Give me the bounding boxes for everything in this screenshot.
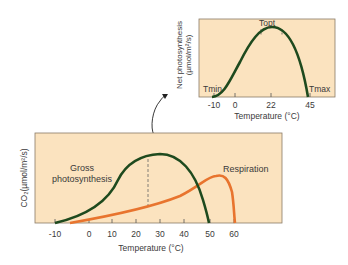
bottom-tick-label: 0: [87, 229, 92, 239]
bottom-tick-label: 20: [131, 229, 141, 239]
top-x-axis-title: Temperature (°C): [234, 111, 299, 121]
respiration-label: Respiration: [223, 164, 269, 174]
top-tick-label: -10: [208, 100, 221, 110]
gross-label-line2: photosynthesis: [52, 174, 113, 184]
tmin-label: Tmin: [203, 84, 222, 94]
top-tick-label: 22: [266, 100, 276, 110]
topt-label: Topt: [259, 18, 276, 28]
tmax-label: Tmax: [309, 84, 331, 94]
bottom-tick-label: -10: [49, 229, 62, 239]
arrow-head-icon: [162, 94, 168, 99]
bottom-y-axis-title: CO₂(µmol/m²/s): [19, 148, 29, 207]
top-tick-label: 0: [233, 100, 238, 110]
top-y-axis-title-line2: (µmol/m²/s): [184, 34, 193, 75]
gross-label-line1: Gross: [70, 163, 95, 173]
top-y-axis-title-line1: Net photosynthesis: [175, 21, 184, 89]
bottom-tick-label: 30: [155, 229, 165, 239]
bottom-tick-label: 50: [205, 229, 215, 239]
bottom-tick-label: 40: [179, 229, 189, 239]
figure: Tmin Topt Tmax -10 0 22 45 Temperature (…: [0, 0, 348, 265]
bottom-tick-label: 60: [229, 229, 239, 239]
bottom-x-axis-title: Temperature (°C): [118, 243, 183, 253]
bottom-tick-label: 10: [107, 229, 117, 239]
top-tick-label: 45: [305, 100, 315, 110]
